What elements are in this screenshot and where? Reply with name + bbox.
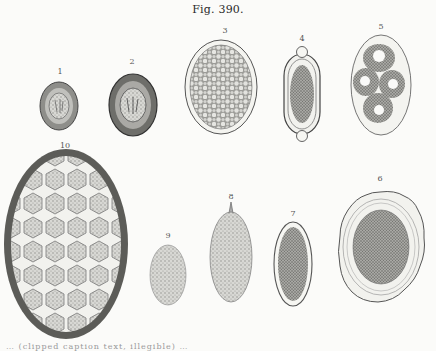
egg-9: [150, 245, 186, 305]
egg-4: [284, 47, 320, 142]
egg-5: [351, 35, 411, 135]
egg-8: [210, 202, 252, 302]
egg-3: [185, 40, 257, 134]
egg-1: [40, 82, 78, 130]
figure-caption: … (clipped caption text, illegible) …: [6, 342, 430, 351]
egg-6: [339, 192, 425, 303]
egg-7: [274, 222, 312, 306]
egg-2: [109, 74, 157, 136]
egg-10: [4, 149, 128, 339]
egg-illustrations: [0, 0, 436, 351]
